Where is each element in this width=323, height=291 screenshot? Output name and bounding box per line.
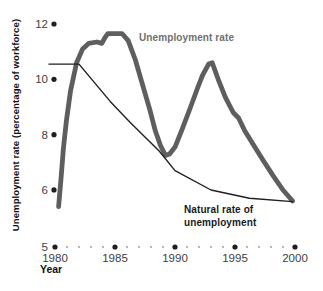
x-axis-minor-dot (210, 246, 212, 248)
x-axis-minor-dot (270, 246, 272, 248)
plot-area (0, 0, 323, 291)
y-tick-dot (51, 21, 56, 26)
x-tick-label: 1990 (162, 252, 188, 264)
x-axis-minor-dot (126, 246, 128, 248)
x-axis-minor-dot (150, 246, 152, 248)
x-axis-minor-dot (246, 246, 248, 248)
chart-figure: Unemployment rate (percentage of workfor… (0, 0, 323, 291)
natural-rate-label-line2: unemployment (184, 216, 256, 229)
y-tick-label: 6 (24, 184, 48, 196)
x-axis-minor-dot (162, 246, 164, 248)
natural-rate-label-line1: Natural rate of (184, 203, 256, 216)
x-axis-title: Year (40, 263, 62, 275)
x-axis-major-dot (232, 244, 237, 249)
y-tick-label: 12 (24, 18, 48, 30)
x-axis-minor-dot (78, 246, 80, 248)
x-axis-major-dot (52, 244, 57, 249)
natural-rate-series-label: Natural rate of unemployment (184, 203, 256, 229)
x-tick-label: 2000 (282, 252, 308, 264)
x-axis-minor-dot (90, 246, 92, 248)
y-tick-dot (51, 77, 56, 82)
y-tick-dot (51, 132, 56, 137)
y-tick-label: 10 (24, 73, 48, 85)
x-tick-label: 1995 (222, 252, 248, 264)
unemployment-rate-series-label: Unemployment rate (139, 32, 234, 43)
x-axis-minor-dot (222, 246, 224, 248)
x-axis-minor-dot (66, 246, 68, 248)
x-axis-major-dot (112, 244, 117, 249)
x-axis-minor-dot (282, 246, 284, 248)
x-axis-minor-dot (102, 246, 104, 248)
x-tick-label: 1985 (102, 252, 128, 264)
x-axis-minor-dot (138, 246, 140, 248)
y-tick-dot (51, 187, 56, 192)
series-line-unemployment-rate (59, 34, 293, 207)
series-line-natural-rate (49, 64, 293, 202)
x-axis-minor-dot (186, 246, 188, 248)
x-axis-major-dot (292, 244, 297, 249)
x-axis-minor-dot (258, 246, 260, 248)
x-axis-minor-dot (198, 246, 200, 248)
y-tick-label: 8 (24, 129, 48, 141)
x-tick-label: 1980 (42, 252, 68, 264)
x-axis-major-dot (172, 244, 177, 249)
y-axis-title: Unemployment rate (percentage of workfor… (10, 19, 21, 231)
